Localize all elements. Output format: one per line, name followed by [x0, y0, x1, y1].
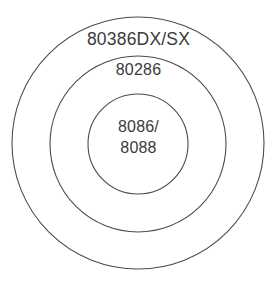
middle-circle-label: 80286: [0, 62, 277, 78]
inner-circle-label: 8086/ 8088: [0, 116, 277, 158]
inner-circle-label-line-1: 8086/: [0, 116, 277, 137]
outer-circle-label: 80386DX/SX: [0, 31, 277, 49]
inner-circle-label-line-2: 8088: [0, 137, 277, 158]
concentric-circles-diagram: 80386DX/SX 80286 8086/ 8088: [0, 0, 277, 291]
